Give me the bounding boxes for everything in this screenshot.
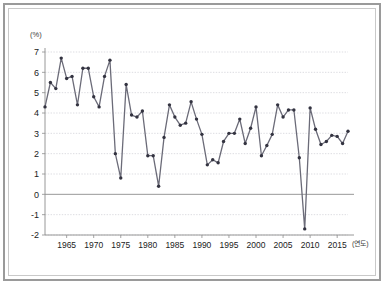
data-point-1976 <box>124 83 127 86</box>
data-point-1986 <box>179 124 182 127</box>
y-tick-label-0: 0 <box>34 190 39 200</box>
data-point-markers <box>43 56 349 230</box>
data-point-1991 <box>206 163 209 166</box>
data-point-1993 <box>216 161 219 164</box>
data-point-1972 <box>103 75 106 78</box>
y-tick-label--1: -1 <box>31 210 39 220</box>
y-tick-label-2: 2 <box>34 149 39 159</box>
data-point-1997 <box>238 117 241 120</box>
data-point-1970 <box>92 95 95 98</box>
x-tick-label-1970: 1970 <box>84 240 103 250</box>
data-point-1961 <box>43 105 46 108</box>
y-tick-label-1: 1 <box>34 169 39 179</box>
y-tick-label-7: 7 <box>34 47 39 57</box>
data-point-2014 <box>330 134 333 137</box>
line-chart: 76543210-1-2 196519701975198019851990199… <box>0 0 388 288</box>
data-point-1985 <box>173 115 176 118</box>
data-point-1990 <box>200 133 203 136</box>
data-point-1980 <box>146 154 149 157</box>
data-point-2005 <box>281 115 284 118</box>
data-point-2015 <box>335 135 338 138</box>
data-point-2013 <box>325 140 328 143</box>
data-series-growth-rate <box>45 58 348 229</box>
x-tick-label-2015: 2015 <box>328 240 347 250</box>
x-tick-label-1965: 1965 <box>57 240 76 250</box>
data-point-1969 <box>87 67 90 70</box>
x-axis-tick-labels: 1965197019751980198519901995200020052010… <box>57 240 347 250</box>
data-point-1979 <box>141 109 144 112</box>
y-tick-label-5: 5 <box>34 88 39 98</box>
x-tick-label-1975: 1975 <box>111 240 130 250</box>
data-point-1974 <box>114 152 117 155</box>
data-point-1962 <box>49 81 52 84</box>
y-tick-label--2: -2 <box>31 230 39 240</box>
y-axis-unit-label: (%) <box>30 30 42 39</box>
data-point-2001 <box>260 154 263 157</box>
data-point-1996 <box>233 132 236 135</box>
x-tick-label-2010: 2010 <box>301 240 320 250</box>
y-axis-tick-labels: 76543210-1-2 <box>31 47 39 240</box>
data-point-1978 <box>135 115 138 118</box>
x-tick-label-2000: 2000 <box>247 240 266 250</box>
data-point-1977 <box>130 113 133 116</box>
data-point-1971 <box>97 105 100 108</box>
data-point-1989 <box>195 117 198 120</box>
data-point-2008 <box>298 156 301 159</box>
data-point-1968 <box>81 67 84 70</box>
chart-container: 76543210-1-2 196519701975198019851990199… <box>0 0 388 288</box>
y-tick-label-3: 3 <box>34 129 39 139</box>
data-point-1964 <box>60 56 63 59</box>
data-point-1966 <box>70 75 73 78</box>
data-point-2012 <box>319 143 322 146</box>
x-axis-title: (연도) <box>352 240 369 248</box>
data-point-1995 <box>227 132 230 135</box>
data-point-1994 <box>222 140 225 143</box>
data-point-2003 <box>271 133 274 136</box>
data-point-2007 <box>292 108 295 111</box>
data-point-1988 <box>189 100 192 103</box>
data-point-1983 <box>162 136 165 139</box>
data-point-2016 <box>341 142 344 145</box>
data-point-1975 <box>119 176 122 179</box>
y-tick-label-6: 6 <box>34 68 39 78</box>
data-point-1963 <box>54 87 57 90</box>
data-point-2000 <box>254 105 257 108</box>
data-point-2017 <box>346 130 349 133</box>
data-point-2011 <box>314 128 317 131</box>
x-tick-label-1980: 1980 <box>138 240 157 250</box>
x-tick-label-1990: 1990 <box>192 240 211 250</box>
data-point-1967 <box>76 103 79 106</box>
x-tick-label-1985: 1985 <box>165 240 184 250</box>
series-line-growth-rate <box>45 58 348 229</box>
x-tick-label-1995: 1995 <box>220 240 239 250</box>
y-tick-label-4: 4 <box>34 108 39 118</box>
data-point-1982 <box>157 185 160 188</box>
data-point-2002 <box>265 144 268 147</box>
data-point-1987 <box>184 121 187 124</box>
data-point-2004 <box>276 103 279 106</box>
data-point-2009 <box>303 227 306 230</box>
data-point-1998 <box>244 142 247 145</box>
x-tick-label-2005: 2005 <box>274 240 293 250</box>
data-point-1984 <box>168 103 171 106</box>
data-point-1999 <box>249 127 252 130</box>
data-point-1965 <box>65 77 68 80</box>
data-point-1981 <box>152 154 155 157</box>
axes <box>42 48 354 238</box>
data-point-1992 <box>211 158 214 161</box>
data-point-2006 <box>287 108 290 111</box>
data-point-2010 <box>308 106 311 109</box>
data-point-1973 <box>108 58 111 61</box>
